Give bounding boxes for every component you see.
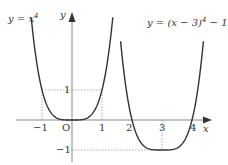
tick-x-3: 3 bbox=[159, 122, 165, 133]
y-axis-label: y bbox=[59, 9, 66, 20]
tick-x-minus1: −1 bbox=[33, 122, 48, 133]
origin-label: O bbox=[62, 122, 70, 133]
curve-shifted bbox=[121, 41, 204, 150]
function-graph: y = x4 y = (x − 3)4 − 1 y x O −1 1 2 3 4… bbox=[0, 0, 228, 165]
x-axis-label: x bbox=[203, 123, 209, 134]
tick-y-minus1: −1 bbox=[56, 144, 71, 155]
tick-x-1: 1 bbox=[99, 122, 105, 133]
tick-x-2: 2 bbox=[126, 122, 132, 133]
curve2-label: y = (x − 3)4 − 1 bbox=[146, 16, 228, 28]
curve1-label: y = x4 bbox=[7, 12, 39, 24]
tick-x-4: 4 bbox=[190, 122, 196, 133]
y-axis-arrow-icon bbox=[69, 12, 76, 22]
tick-y-1: 1 bbox=[64, 84, 70, 95]
